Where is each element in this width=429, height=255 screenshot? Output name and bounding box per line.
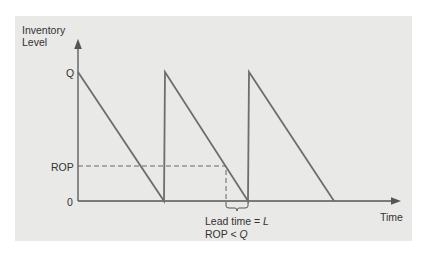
rop-condition-text: ROP < [205,228,240,240]
tick-q: Q [66,67,74,79]
inventory-sawtooth [78,72,334,201]
lead-time-text: Lead time = [205,215,263,227]
tick-rop: ROP [51,161,74,173]
y-axis-label-line1: Inventory [22,24,65,36]
rop-condition-var: Q [240,228,248,240]
lead-time-brace [226,202,248,211]
y-axis-label: Inventory Level [22,24,65,48]
lead-time-annotation: Lead time = L [205,215,269,227]
rop-condition-annotation: ROP < Q [205,228,248,240]
tick-zero: 0 [67,196,73,208]
x-axis-label: Time [380,211,403,223]
lead-time-var: L [263,215,269,227]
y-axis-label-line2: Level [22,36,65,48]
